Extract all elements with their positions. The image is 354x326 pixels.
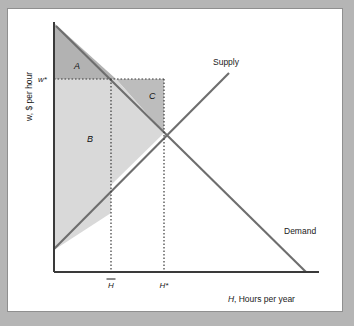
region-c-label: C [149, 91, 156, 101]
y-axis-title: w, $ per hour [24, 72, 34, 122]
x-axis-title-text: , Hours per year [234, 294, 295, 304]
region-a-label: A [73, 61, 80, 71]
y-tick-label-w-star: w* [38, 75, 48, 84]
x-tick-label-h-bar-text: H [108, 281, 114, 290]
x-tick-label-h-bar: H [107, 279, 116, 290]
region-b-shape [54, 79, 111, 250]
x-axis-title: H , Hours per year [228, 294, 295, 304]
supply-curve-label: Supply [213, 57, 240, 67]
region-b-label: B [87, 134, 93, 144]
labor-market-chart: Supply Demand A B C w* H H* w, $ per hou… [8, 9, 342, 311]
figure-panel: Supply Demand A B C w* H H* w, $ per hou… [7, 8, 343, 312]
x-tick-label-h-star: H* [160, 281, 170, 290]
demand-curve-label: Demand [284, 226, 316, 236]
region-a-shape [55, 24, 116, 79]
